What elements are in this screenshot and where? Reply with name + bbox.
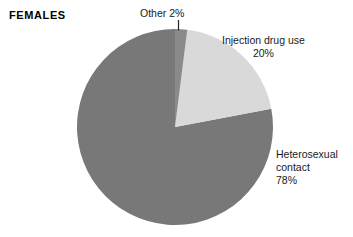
slice-label-injection-drug-use-percent: 20% (222, 47, 305, 60)
slice-label-heterosexual-contact-percent: 78% (276, 174, 338, 187)
slice-label-heterosexual-contact: Heterosexual contact 78% (276, 148, 338, 187)
slice-label-heterosexual-contact-line1: Heterosexual (276, 148, 338, 161)
slice-label-heterosexual-contact-line2: contact (276, 161, 338, 174)
slice-label-other-text: Other 2% (140, 7, 184, 19)
slice-label-injection-drug-use: Injection drug use 20% (222, 34, 305, 60)
slice-label-other: Other 2% (140, 7, 184, 20)
pie-chart-screenshot: FEMALES Other 2% Injection drug use 20% … (0, 0, 353, 237)
slice-label-injection-drug-use-text: Injection drug use (222, 34, 305, 46)
